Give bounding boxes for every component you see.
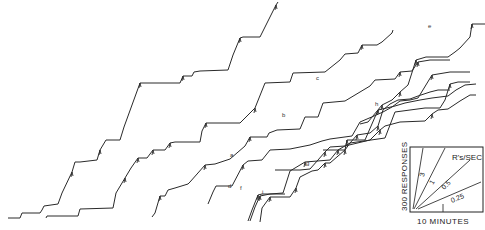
cumulative-record-chart: abcdefghi R's/SEC 3 1 0.5 0.25 10 MINUTE… [0,0,485,230]
curve-label-d: d [228,183,231,189]
cumulative-record-e [360,24,485,124]
curve-label-a: a [230,152,234,158]
cumulative-record-c [250,82,470,221]
legend-rate-1: 1 [428,179,436,186]
curve-label-e: e [428,23,432,29]
cumulative-record-series-1 [8,2,278,218]
record-curves [8,2,485,222]
legend-rate-025: 0.25 [450,192,465,204]
legend-x-label: 10 MINUTES [417,217,469,226]
curve-label-h: h [375,101,378,107]
cumulative-record-f [248,194,285,221]
rate-legend: R's/SEC 3 1 0.5 0.25 10 MINUTES 300 RESP… [400,142,483,226]
legend-rate-05: 0.5 [440,179,452,191]
curve-label-b: b [282,112,286,118]
cumulative-record-a [46,30,393,218]
legend-rate-3: 3 [418,172,426,177]
curve-label-g: g [306,160,309,166]
legend-rate-3-line [413,148,423,209]
legend-title: R's/SEC [452,153,482,162]
curve-label-c: c [316,75,319,81]
legend-y-label: 300 RESPONSES [400,142,409,211]
curve-label-f: f [240,185,242,191]
curve-label-i: i [262,189,263,195]
